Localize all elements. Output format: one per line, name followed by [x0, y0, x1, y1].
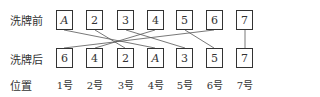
position-4: 4号 — [141, 77, 171, 92]
position-6: 6号 — [200, 77, 230, 92]
connector-4 — [95, 30, 155, 48]
before-card-3: 3 — [117, 10, 134, 30]
before-card-6: 6 — [206, 10, 223, 30]
position-2: 2号 — [80, 77, 110, 92]
after-card-6: 5 — [206, 48, 223, 68]
position-7: 7号 — [230, 77, 260, 92]
connector-2 — [95, 30, 125, 48]
before-card-5: 5 — [176, 10, 193, 30]
after-card-1: 6 — [56, 48, 73, 68]
position-5: 5号 — [170, 77, 200, 92]
position-1: 1号 — [50, 77, 80, 92]
after-card-7: 7 — [236, 48, 253, 68]
before-card-2: 2 — [86, 10, 103, 30]
before-card-4: 4 — [147, 10, 164, 30]
connector-3 — [126, 30, 185, 48]
before-card-7: 7 — [236, 10, 253, 30]
connector-6 — [64, 30, 214, 48]
after-card-2: 4 — [86, 48, 103, 68]
after-card-5: 3 — [176, 48, 193, 68]
after-card-4: A — [147, 48, 164, 68]
before-card-1: A — [56, 10, 73, 30]
after-card-3: 2 — [117, 48, 134, 68]
position-3: 3号 — [111, 77, 141, 92]
